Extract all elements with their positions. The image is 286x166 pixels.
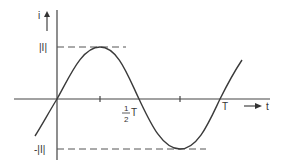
y-axis-label: i <box>38 10 40 21</box>
x-axis-label: t <box>266 101 269 112</box>
peak-label: |I| <box>39 42 47 53</box>
x-arrow-head-icon <box>255 103 262 109</box>
half-period-denominator: 2 <box>124 115 129 124</box>
half-period-numerator: 1 <box>124 104 129 113</box>
trough-label: -|I| <box>34 144 45 155</box>
sine-curve <box>35 47 242 149</box>
y-arrow-head-icon <box>44 11 50 17</box>
half-period-T: T <box>131 107 137 118</box>
period-label: T <box>222 101 228 112</box>
sine-wave-diagram: i |I| -|I| 1 2 T T t <box>0 0 286 166</box>
